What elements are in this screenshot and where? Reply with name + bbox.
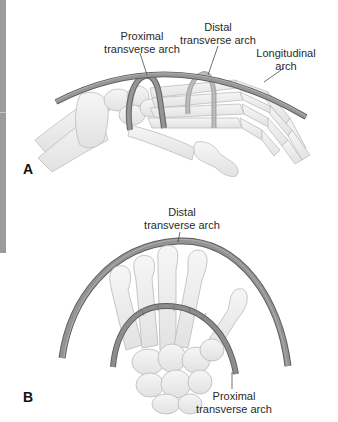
thumb-lateral bbox=[128, 125, 238, 177]
panel-b-illustration bbox=[62, 232, 288, 414]
metacarpals-end-view bbox=[110, 246, 248, 350]
label-longitudinal-arch: Longitudinal arch bbox=[252, 47, 320, 72]
label-line: transverse arch bbox=[194, 403, 274, 416]
label-line: Longitudinal bbox=[252, 47, 320, 60]
label-line: transverse arch bbox=[178, 34, 258, 47]
phalanges-lateral bbox=[235, 80, 310, 164]
label-line: Distal bbox=[178, 21, 258, 34]
label-line: transverse arch bbox=[102, 43, 182, 56]
label-distal-transverse-arch-b: Distal transverse arch bbox=[142, 206, 222, 231]
leader-distal-a bbox=[208, 46, 218, 75]
panel-letter-a: A bbox=[23, 161, 33, 177]
label-distal-transverse-arch-a: Distal transverse arch bbox=[178, 21, 258, 46]
label-proximal-transverse-arch-b: Proximal transverse arch bbox=[194, 390, 274, 415]
label-line: Distal bbox=[142, 206, 222, 219]
panel-letter-b: B bbox=[23, 389, 33, 405]
label-line: transverse arch bbox=[142, 219, 222, 232]
label-line: Proximal bbox=[102, 30, 182, 43]
leader-proximal-a bbox=[140, 53, 147, 75]
label-line: arch bbox=[252, 60, 320, 73]
label-line: Proximal bbox=[194, 390, 274, 403]
forearm-bones bbox=[35, 92, 110, 172]
label-proximal-transverse-arch-a: Proximal transverse arch bbox=[102, 30, 182, 55]
